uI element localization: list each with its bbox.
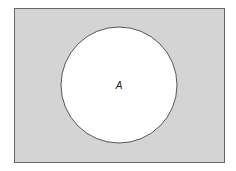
venn-diagram: A <box>0 0 236 171</box>
set-a-label: A <box>115 80 123 91</box>
